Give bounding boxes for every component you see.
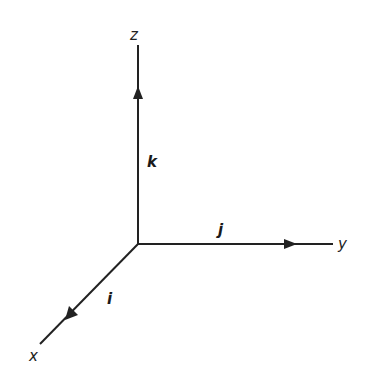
y-axis-label: y (337, 235, 348, 253)
j-vector-label: j (216, 221, 224, 239)
x-axis-line (40, 244, 138, 344)
z-axis-label: z (129, 26, 139, 44)
coordinate-axes-diagram: z k y j x i (0, 0, 365, 372)
z-axis-arrowhead-icon (133, 86, 143, 99)
z-axis: z k (129, 26, 158, 244)
i-vector-label: i (107, 290, 113, 308)
x-axis: x i (28, 244, 138, 365)
y-axis: y j (138, 221, 348, 253)
x-axis-label: x (28, 347, 38, 365)
k-vector-label: k (147, 153, 158, 171)
y-axis-arrowhead-icon (284, 239, 297, 249)
